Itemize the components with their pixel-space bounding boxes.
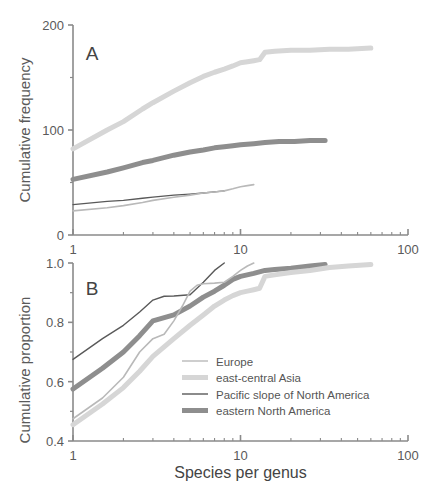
x-axis-title: Species per genus	[174, 464, 307, 481]
y-ticklabel-A-1: 100	[42, 123, 64, 138]
y-axis-label-B: Cumulative proportion	[16, 297, 33, 444]
series-line-A-0	[73, 48, 371, 149]
x-ticklabel-B-2: 100	[397, 448, 419, 463]
x-ticklabel-A-2: 100	[397, 242, 419, 257]
figure-container: 0100200110100ACumulative frequency0.40.6…	[0, 0, 430, 491]
series-line-A-1	[73, 141, 325, 180]
y-axis-label-A: Cumulative frequency	[16, 57, 33, 203]
x-ticklabel-B-0: 1	[69, 448, 76, 463]
panel-label-A: A	[86, 43, 99, 64]
panel-label-B: B	[86, 278, 99, 299]
x-ticklabel-A-1: 10	[233, 242, 247, 257]
legend-label-0: Europe	[216, 356, 253, 368]
panel-A: 0100200110100ACumulative frequency	[16, 18, 419, 257]
y-ticklabel-A-2: 200	[42, 18, 64, 33]
y-ticklabel-B-2: 0.8	[46, 315, 64, 330]
y-ticklabel-B-0: 0.4	[46, 434, 64, 449]
series-line-A-3	[73, 185, 254, 211]
y-ticklabel-B-3: 1.0	[46, 256, 64, 271]
y-ticklabel-B-1: 0.6	[46, 375, 64, 390]
x-ticklabel-B-1: 10	[233, 448, 247, 463]
y-ticklabel-A-0: 0	[57, 228, 64, 243]
legend-label-3: eastern North America	[216, 405, 331, 417]
legend-label-2: Pacific slope of North America	[216, 389, 370, 401]
figure-svg: 0100200110100ACumulative frequency0.40.6…	[0, 0, 430, 491]
x-ticklabel-A-0: 1	[69, 242, 76, 257]
series-line-B-1	[73, 264, 325, 389]
legend: Europeeast-central AsiaPacific slope of …	[182, 356, 370, 418]
legend-label-1: east-central Asia	[216, 372, 302, 384]
